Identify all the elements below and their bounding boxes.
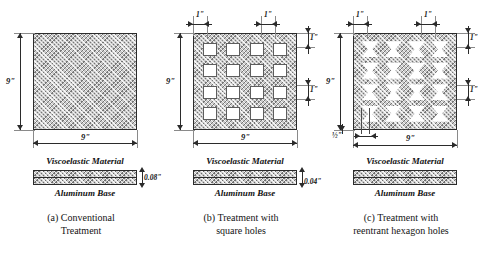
reentrant-hexagon-hole (408, 41, 425, 57)
hole-cell (223, 40, 243, 59)
square-hole (203, 64, 217, 77)
hole-cell (430, 105, 450, 124)
reentrant-hexagon-hole (408, 106, 425, 122)
panel-square-holes-treatment: 1" 1" 9" 1" 1" 9" (160, 0, 322, 254)
arrow-up-thickness-a (139, 167, 145, 172)
layer-viscoelastic-c (354, 171, 456, 178)
plate-conventional (33, 33, 137, 130)
arrow-left-top-right-b (272, 21, 277, 27)
dimension-label-height-c: 9" (326, 77, 335, 86)
arrow-right-top-left-b (188, 21, 193, 27)
caption-line2-c: reentrant hexagon holes (320, 225, 482, 238)
arrow-left-top-right-c (432, 21, 437, 27)
hole-cell (223, 83, 243, 102)
hole-cell (223, 105, 243, 124)
hole-cell (383, 62, 403, 81)
hole-cell (407, 62, 427, 81)
reentrant-hexagon-hole (385, 41, 402, 57)
reentrant-hexagon-hole (362, 106, 379, 122)
hole-cell (270, 40, 290, 59)
dimension-label-thickness-a: 0.08" (144, 174, 161, 182)
dimension-label-thickness-b: 0.04" (304, 178, 321, 186)
dimension-label-right-lower-c: 1" (470, 86, 478, 94)
dimension-line-height-b (180, 33, 181, 130)
dimension-label-width-a: 9" (81, 133, 90, 142)
hole-cell (383, 83, 403, 102)
caption-line2-a: Treatment (0, 225, 162, 238)
hole-cell (270, 62, 290, 81)
dimension-label-right-lower-b: 1" (310, 86, 318, 94)
dimension-label-height-a: 9" (6, 77, 15, 86)
arrow-up-thickness-b (299, 167, 305, 172)
reentrant-hexagon-hole (431, 63, 448, 79)
dimension-line-width-b (193, 143, 297, 144)
square-hole (250, 86, 264, 99)
arrow-left-width-a (33, 140, 38, 146)
square-hole (273, 107, 287, 120)
dimension-line-height-a (20, 33, 21, 130)
arrow-left-neck-c (371, 133, 376, 139)
square-hole (250, 107, 264, 120)
leader-line-neck-left-c (361, 108, 362, 134)
hole-cell (360, 40, 380, 59)
arrow-down-neck-tick-c (339, 126, 345, 131)
hole-cell (383, 105, 403, 124)
hole-cell (430, 83, 450, 102)
arrow-right-neck-c (355, 133, 360, 139)
layer-stack-c (353, 170, 457, 185)
hole-cell (360, 105, 380, 124)
arrow-right-width-a (132, 140, 137, 146)
reentrant-hexagon-hole (408, 84, 425, 100)
dimension-label-right-upper-c: 1" (470, 34, 478, 42)
extension-line-top-c-2 (367, 16, 368, 38)
extension-line-bottom-a (14, 130, 35, 131)
square-hole (226, 86, 240, 99)
arrow-down-height-b (177, 125, 183, 130)
extension-line-bottom-c-2 (457, 130, 458, 148)
dimension-label-top-left-b: 1" (196, 11, 204, 19)
arrow-up-height-a (17, 33, 23, 38)
caption-line1-c: (c) Treatment with (364, 212, 438, 223)
hole-grid-square (193, 33, 297, 130)
square-hole (226, 64, 240, 77)
square-hole (203, 107, 217, 120)
arrow-right-top-right-b (256, 21, 261, 27)
square-hole (226, 107, 240, 120)
square-hole (226, 43, 240, 56)
cross-section-bottom-label-b: Aluminum Base (193, 189, 297, 198)
reentrant-hexagon-hole (385, 84, 402, 100)
dimension-line-width-c (353, 145, 457, 146)
hole-cell (407, 83, 427, 102)
square-hole (273, 43, 287, 56)
dimension-label-right-upper-b: 1" (310, 34, 318, 42)
dimension-label-top-right-b: 1" (264, 11, 272, 19)
square-hole (273, 86, 287, 99)
layer-stack-a (33, 170, 137, 185)
arrow-left-width-c (353, 142, 358, 148)
arrow-right-top-left-c (348, 21, 353, 27)
hole-cell (200, 40, 220, 59)
extension-line-top-b-2 (207, 16, 208, 38)
dimension-line-width-a (33, 143, 137, 144)
square-hole (203, 86, 217, 99)
hole-cell (360, 62, 380, 81)
hole-cell (223, 62, 243, 81)
reentrant-hexagon-hole (431, 106, 448, 122)
extension-line-right-a (137, 130, 138, 148)
extension-line-bottom-b-2 (297, 130, 298, 148)
dimension-line-height-c (340, 33, 341, 130)
layer-viscoelastic-b (194, 171, 296, 178)
arrow-left-top-left-c (364, 21, 369, 27)
square-hole (250, 64, 264, 77)
arrow-right-width-c (452, 142, 457, 148)
extension-line-top-c-4 (435, 16, 436, 38)
arrow-right-top-right-c (416, 21, 421, 27)
hole-cell (407, 105, 427, 124)
caption-panel-a: (a) Conventional Treatment (0, 212, 162, 237)
extension-line-top-c-3 (421, 16, 422, 38)
dimension-label-width-c: 9" (406, 134, 415, 143)
layer-aluminum-a (34, 178, 136, 184)
figure-constrained-layer-damping-treatments: 9" 9" Viscoelastic Material Aluminum Bas… (0, 0, 485, 254)
square-hole (273, 64, 287, 77)
hole-cell (360, 83, 380, 102)
